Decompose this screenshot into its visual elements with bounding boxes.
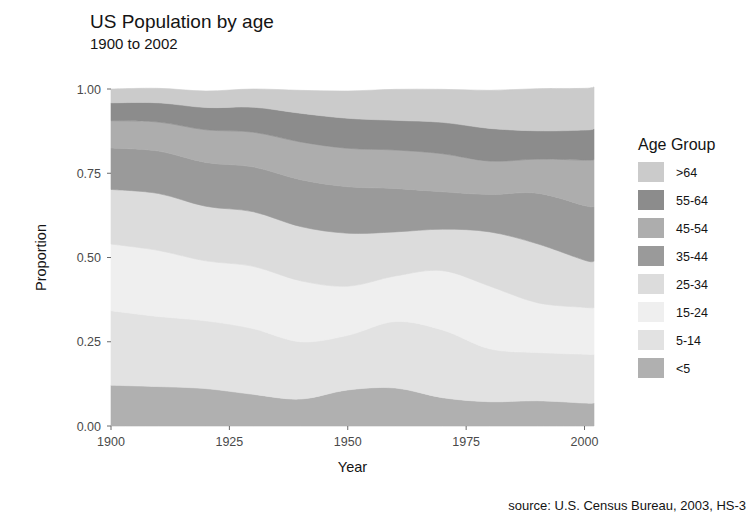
y-axis: 0.000.250.500.751.00 — [77, 83, 111, 434]
legend-swatch — [638, 274, 664, 294]
x-tick-label: 2000 — [571, 435, 599, 449]
legend-swatch — [638, 330, 664, 350]
legend-label: >64 — [676, 166, 697, 180]
page-title: US Population by age — [90, 10, 274, 34]
legend-label: <5 — [676, 362, 690, 376]
title-block: US Population by age 1900 to 2002 — [90, 10, 274, 54]
legend-label: 25-34 — [676, 278, 708, 292]
legend-label: 55-64 — [676, 194, 708, 208]
x-tick-label: 1900 — [97, 435, 125, 449]
x-axis: 19001925195019752000 — [97, 426, 598, 449]
y-axis-title: Proportion — [33, 224, 49, 291]
area-series-group — [111, 87, 594, 426]
legend-swatch — [638, 218, 664, 238]
y-tick-label: 0.75 — [77, 167, 101, 181]
legend-items: >6455-6445-5435-4425-3415-245-14<5 — [638, 162, 708, 378]
legend: Age Group >6455-6445-5435-4425-3415-245-… — [638, 136, 715, 378]
legend-swatch — [638, 358, 664, 378]
legend-swatch — [638, 162, 664, 182]
legend-title: Age Group — [638, 136, 715, 153]
legend-swatch — [638, 190, 664, 210]
legend-label: 45-54 — [676, 222, 708, 236]
x-tick-label: 1950 — [334, 435, 362, 449]
stacked-area-chart: 19001925195019752000 0.000.250.500.751.0… — [0, 0, 756, 521]
y-tick-label: 0.25 — [77, 335, 101, 349]
x-tick-label: 1975 — [452, 435, 480, 449]
source-note: source: U.S. Census Bureau, 2003, HS-3 — [508, 498, 746, 513]
legend-label: 5-14 — [676, 334, 701, 348]
y-tick-label: 0.50 — [77, 251, 101, 265]
legend-swatch — [638, 302, 664, 322]
legend-label: 15-24 — [676, 306, 708, 320]
x-tick-label: 1925 — [215, 435, 243, 449]
chart-figure: US Population by age 1900 to 2002 190019… — [0, 0, 756, 521]
y-tick-label: 0.00 — [77, 420, 101, 434]
legend-swatch — [638, 246, 664, 266]
chart-subtitle: 1900 to 2002 — [90, 34, 274, 54]
y-tick-label: 1.00 — [77, 83, 101, 97]
x-axis-title: Year — [338, 459, 367, 475]
legend-label: 35-44 — [676, 250, 708, 264]
